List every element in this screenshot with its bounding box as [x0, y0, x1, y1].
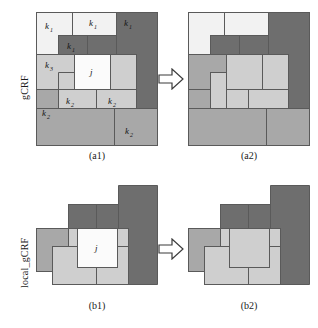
- arrow-right-icon: [159, 69, 183, 89]
- panel-a1: k 1 k 1 k 1 k 1 k 3 j k 2 k 2 k 2 k 2: [36, 12, 158, 146]
- cell-bottom-band: [189, 109, 310, 146]
- caption-b1: (b1): [57, 300, 137, 311]
- cell-k2-lower-right: [249, 90, 289, 109]
- label-k2-lower-right-sub: 2: [113, 102, 116, 108]
- row-label-local-gcrf: local_gCRF: [19, 238, 30, 288]
- cell-dark-top-band: [221, 205, 271, 229]
- arrow-a1-to-a2: [158, 68, 184, 94]
- label-k1-top-left-sub: 1: [50, 27, 53, 33]
- label-k2-bottom-right-sub: 2: [130, 132, 133, 138]
- arrow-a-svg: [158, 68, 184, 90]
- caption-a1: (a1): [57, 150, 137, 161]
- figure-container: gCRF local_gCRF: [0, 0, 318, 328]
- label-k2-lower-left-sub: 2: [71, 102, 74, 108]
- panel-a2: [188, 12, 310, 146]
- panel-b2-svg: [188, 185, 310, 295]
- label-k2-bottom-left-sub: 2: [47, 114, 50, 120]
- cell-k2-bottom-left: [37, 90, 59, 109]
- cell-j-center: [230, 229, 270, 268]
- label-j-center: j: [89, 67, 93, 77]
- label-k1-top-right-sub: 1: [129, 24, 132, 30]
- panel-b2: [188, 185, 310, 295]
- cell-k3-lower-left: [211, 73, 227, 109]
- label-j-center: j: [94, 243, 98, 253]
- arrow-b-svg: [158, 238, 184, 260]
- cell-j-center: [227, 55, 263, 90]
- caption-a2: (a2): [209, 150, 289, 161]
- label-k1-top-mid-sub: 1: [94, 24, 97, 30]
- panel-a2-svg: [188, 12, 310, 146]
- panel-b1-svg: j: [36, 185, 158, 295]
- panel-a1-svg: k 1 k 1 k 1 k 1 k 3 j k 2 k 2 k 2 k 2: [36, 12, 158, 146]
- cell-k2-bottom-left: [189, 90, 211, 109]
- label-k3-left-sub: 3: [49, 66, 53, 72]
- cell-dark-top-band: [69, 205, 119, 229]
- row-label-gcrf: gCRF: [19, 75, 30, 100]
- cell-right-col: [263, 55, 289, 90]
- arrow-right-icon: [159, 239, 183, 259]
- cell-k2-lower-right: [97, 90, 137, 109]
- caption-b2: (b2): [209, 300, 289, 311]
- label-k1-inner-dark-sub: 1: [72, 47, 75, 53]
- panel-b1: j: [36, 185, 158, 295]
- cell-bottom-band: [37, 109, 158, 146]
- arrow-b1-to-b2: [158, 238, 184, 264]
- cell-k1-top-mid: [225, 13, 269, 36]
- cell-k2-lower-left: [59, 90, 97, 109]
